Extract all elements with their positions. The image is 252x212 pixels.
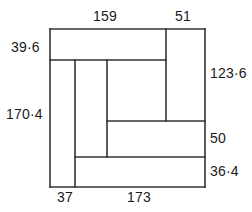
dimension-label-right-123-6: 123·6 — [210, 66, 247, 80]
dimension-label-top-51: 51 — [175, 9, 191, 23]
dimension-label-right-50: 50 — [210, 131, 226, 145]
dimension-label-left-170-4: 170·4 — [6, 107, 43, 121]
dimension-label-top-159: 159 — [93, 9, 117, 23]
dimension-label-bottom-37: 37 — [57, 190, 73, 204]
dimension-label-left-39-6: 39·6 — [11, 40, 40, 54]
dimension-label-right-36-4: 36·4 — [210, 164, 239, 178]
dimension-label-bottom-173: 173 — [127, 190, 151, 204]
technical-drawing-canvas: 159 51 39·6 170·4 123·6 50 36·4 37 173 — [0, 0, 252, 212]
